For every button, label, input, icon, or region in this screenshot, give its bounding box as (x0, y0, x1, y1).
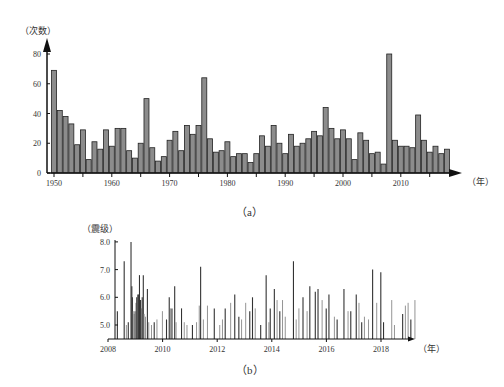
x-ticks-a: 1950196019701980199020002010 (46, 173, 430, 188)
bar (190, 134, 195, 173)
bar (312, 131, 317, 173)
bar (369, 154, 374, 173)
bar (115, 128, 120, 173)
x-tick-label: 2012 (209, 345, 225, 354)
bar (433, 146, 438, 173)
x-axis-arrow-icon-b (408, 337, 415, 342)
bar (283, 154, 288, 173)
bar (317, 136, 322, 173)
bar (427, 152, 432, 173)
bar (132, 158, 137, 173)
x-tick-label: 2010 (393, 179, 409, 188)
caption-a: （a） (236, 206, 263, 218)
bar (80, 130, 85, 173)
bar (184, 125, 189, 173)
bar (63, 116, 68, 173)
bar (265, 146, 270, 173)
bar (323, 108, 328, 173)
x-tick-label: 1970 (162, 179, 178, 188)
bar (121, 128, 126, 173)
bar (352, 160, 357, 173)
event-lines-b (117, 242, 415, 339)
bar (213, 152, 218, 173)
x-axis-arrow-icon (449, 169, 462, 177)
x-axis-label-a: （年） (467, 176, 494, 187)
bar (254, 154, 259, 173)
bar (208, 139, 213, 173)
bar (271, 125, 276, 173)
x-tick-label: 2016 (318, 345, 334, 354)
x-tick-label: 1960 (104, 179, 120, 188)
bar (358, 133, 363, 173)
bar (294, 146, 299, 173)
bar (86, 160, 91, 173)
bar (196, 125, 201, 173)
bar (156, 161, 161, 173)
bar (150, 148, 155, 173)
x-tick-label: 2010 (155, 345, 171, 354)
bar (248, 163, 253, 173)
bar (375, 152, 380, 173)
y-tick-label: 0 (37, 169, 41, 178)
bar (288, 134, 293, 173)
bar (346, 139, 351, 173)
bar (173, 131, 178, 173)
chart-a: （次数） 020406080 1950196019701980199020002… (20, 25, 494, 218)
x-tick-label: 1980 (219, 179, 235, 188)
x-tick-label: 2014 (264, 345, 280, 354)
bar (104, 130, 109, 173)
y-tick-label: 60 (33, 80, 41, 89)
x-ticks-b: 200820102012201420162018 (100, 339, 389, 354)
y-tick-label: 80 (33, 50, 41, 59)
caption-b: （b） (236, 364, 264, 376)
bar (236, 154, 241, 173)
bar (161, 157, 166, 173)
bar (277, 143, 282, 173)
bar (387, 54, 392, 173)
bar (219, 151, 224, 173)
bar (167, 140, 172, 173)
y-tick-label: 40 (33, 110, 41, 119)
bar (231, 157, 236, 173)
bar (404, 146, 409, 173)
y-axis-label-b: （震级） (82, 223, 118, 234)
y-tick-label: 20 (33, 139, 41, 148)
x-axis-label-b: （年） (418, 343, 445, 354)
x-tick-label: 1990 (277, 179, 293, 188)
bar (398, 146, 403, 173)
bar (52, 70, 57, 173)
figure: （次数） 020406080 1950196019701980199020002… (0, 0, 504, 387)
x-tick-label: 2018 (373, 345, 389, 354)
x-tick-label: 1950 (46, 179, 62, 188)
bar (202, 78, 207, 173)
bar (416, 115, 421, 173)
bar (410, 148, 415, 173)
bar (300, 143, 305, 173)
y-tick-label: 8.0 (100, 238, 110, 247)
bar (179, 151, 184, 173)
bar (98, 149, 103, 173)
bar (335, 139, 340, 173)
bar (341, 130, 346, 173)
x-tick-label: 2000 (335, 179, 351, 188)
y-axis-label-a: （次数） (20, 25, 56, 36)
bar (225, 142, 230, 173)
bar (144, 99, 149, 173)
bar (69, 124, 74, 173)
bar (138, 143, 143, 173)
bars-a (52, 54, 450, 173)
y-tick-label: 5.0 (100, 321, 110, 330)
bar (381, 164, 386, 173)
x-tick-label: 2008 (100, 345, 116, 354)
bar (421, 140, 426, 173)
bar (306, 139, 311, 173)
bar (329, 128, 334, 173)
bar (127, 151, 132, 173)
bar (445, 149, 450, 173)
bar (242, 154, 247, 173)
chart-b: （震级） 5.06.07.08.0 2008201020122014201620… (82, 223, 445, 376)
bar (260, 136, 265, 173)
bar (109, 146, 114, 173)
y-axis-arrow-icon (43, 38, 51, 52)
bar (364, 140, 369, 173)
